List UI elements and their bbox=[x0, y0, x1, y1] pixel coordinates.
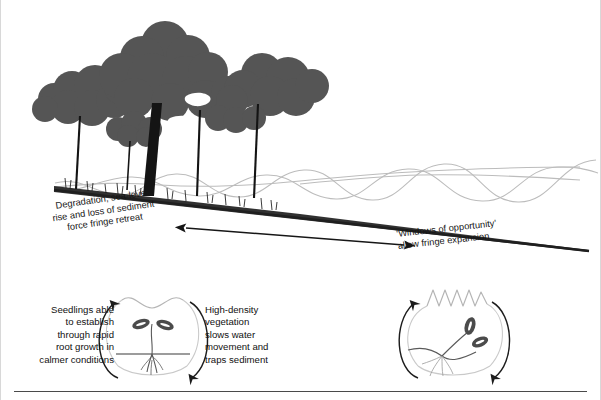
loop-text-high-density-vegetation: High-density vegetation slows water move… bbox=[205, 304, 301, 366]
mangrove-canopy-cluster bbox=[32, 21, 329, 147]
feedback-loop-establishment: Seedlings able to establish through rapi… bbox=[0, 282, 300, 392]
feedback-loop-dislodgement: Seedlings dislodged or toppled before cr… bbox=[300, 282, 600, 392]
upright-seedling bbox=[141, 324, 163, 375]
toppled-seedling bbox=[408, 332, 476, 376]
mangrove-fringe-scene: Degradation, sea-level rise and loss of … bbox=[0, 0, 601, 282]
figure-canvas: Degradation, sea-level rise and loss of … bbox=[0, 0, 601, 400]
loop-text-seedlings-establish: Seedlings able to establish through rapi… bbox=[8, 304, 114, 366]
turbulent-water-surface bbox=[427, 290, 487, 306]
double-headed-retreat-expansion-arrow bbox=[186, 228, 404, 245]
toppled-seedling-leaves bbox=[463, 316, 490, 350]
calm-water-surface bbox=[122, 298, 183, 308]
loop-arc-right-down bbox=[492, 302, 510, 378]
feedback-loops-panel: Seedlings able to establish through rapi… bbox=[0, 282, 601, 392]
